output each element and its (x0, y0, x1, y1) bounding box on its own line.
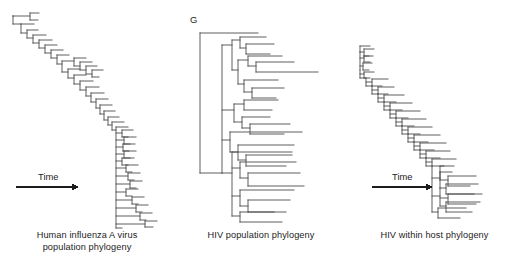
hiv-population-tree-diagram (174, 0, 348, 230)
time-label-within-host: Time (392, 171, 412, 182)
figure-root: Time Human influenza A virus population … (0, 0, 521, 263)
time-arrow-within-host (372, 184, 433, 191)
caption-influenza: Human influenza A virus population phylo… (0, 230, 174, 253)
root-label-g: G (190, 14, 197, 25)
time-label-influenza: Time (38, 171, 58, 182)
panel-hiv-within-host: Time HIV within host phylogeny (348, 0, 521, 263)
panel-influenza: Time Human influenza A virus population … (0, 0, 174, 263)
panel-hiv-population: G HIV population phylogeny (174, 0, 348, 263)
caption-hiv-population: HIV population phylogeny (174, 230, 348, 242)
hiv-within-host-tree-diagram (348, 0, 521, 230)
caption-hiv-within-host: HIV within host phylogeny (348, 230, 521, 242)
time-arrow-influenza (16, 184, 79, 191)
influenza-tree-diagram (0, 0, 174, 230)
